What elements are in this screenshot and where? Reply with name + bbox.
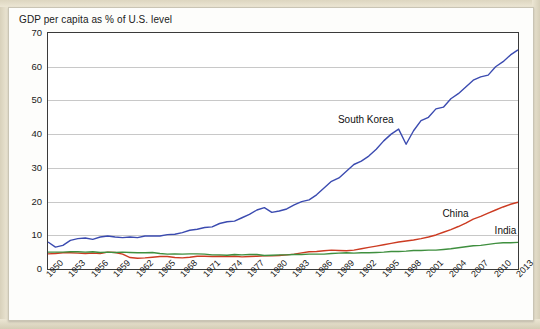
x-axis-labels: 1950195319561959196219651968197119741977… xyxy=(47,270,517,318)
series-annotation: China xyxy=(442,208,468,219)
y-tick-label: 0 xyxy=(37,263,42,274)
y-tick-label: 40 xyxy=(31,128,42,139)
y-tick-label: 70 xyxy=(31,27,42,38)
y-tick-label: 30 xyxy=(31,161,42,172)
y-tick-label: 50 xyxy=(31,94,42,105)
series-lines xyxy=(48,33,518,269)
y-tick-label: 10 xyxy=(31,229,42,240)
scan-edge-left xyxy=(0,0,8,329)
chart-card: GDP per capita as % of U.S. level 010203… xyxy=(8,7,534,321)
y-tick-label: 60 xyxy=(31,60,42,71)
screenshot-root: GDP per capita as % of U.S. level 010203… xyxy=(0,0,540,329)
scan-edge-top xyxy=(0,0,540,7)
y-tick-label: 20 xyxy=(31,195,42,206)
series-annotation: India xyxy=(495,225,517,236)
y-axis-labels: 010203040506070 xyxy=(9,8,47,320)
chart-area: GDP per capita as % of U.S. level 010203… xyxy=(9,8,533,320)
plot-area xyxy=(47,32,519,270)
series-annotation: South Korea xyxy=(338,114,394,125)
